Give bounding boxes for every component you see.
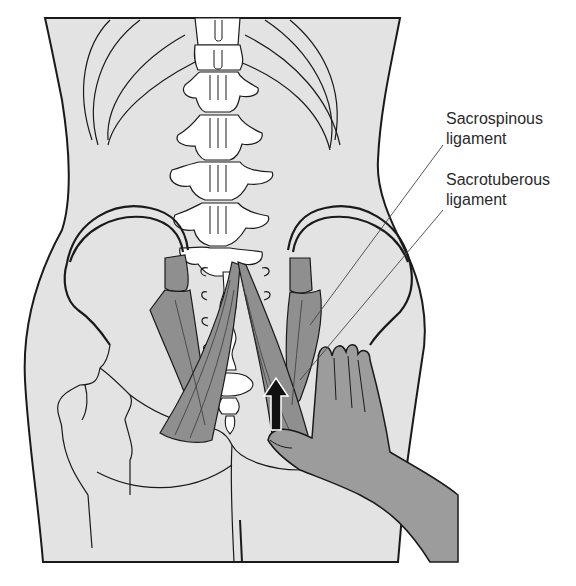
- sacrotuberous-ligament-label: Sacrotuberous ligament: [446, 170, 550, 210]
- sacroiliac-ligament-right: [290, 258, 312, 293]
- sacroiliac-ligament-left: [165, 255, 188, 291]
- sacrotuberous-label-line2: ligament: [446, 190, 550, 210]
- sacrospinous-label-line2: ligament: [446, 129, 543, 149]
- sacrotuberous-label-line1: Sacrotuberous: [446, 170, 550, 190]
- sacrospinous-label-line1: Sacrospinous: [446, 109, 543, 129]
- sacrospinous-ligament-label: Sacrospinous ligament: [446, 109, 543, 149]
- anatomy-illustration: [0, 0, 576, 586]
